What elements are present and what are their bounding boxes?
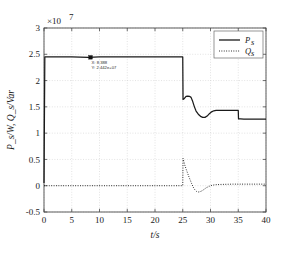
x-axis-title: t/s: [151, 230, 160, 240]
svg-text:5: 5: [70, 215, 75, 225]
svg-text:15: 15: [123, 215, 133, 225]
x-tick-labels: 0510152025303540: [42, 215, 271, 225]
svg-text:0: 0: [42, 215, 47, 225]
svg-text:20: 20: [151, 215, 161, 225]
figure-container: X: 8.388Y: 2.442e+07 0510152025303540 -0…: [0, 0, 291, 266]
svg-text:-0.5: -0.5: [26, 207, 41, 217]
svg-text:30: 30: [206, 215, 216, 225]
chart-legend[interactable]: PsQs: [214, 31, 263, 58]
svg-text:t/s: t/s: [151, 230, 160, 240]
svg-text:P: P: [244, 35, 250, 45]
svg-text:40: 40: [262, 215, 272, 225]
svg-text:0: 0: [36, 181, 41, 191]
chart-plot: X: 8.388Y: 2.442e+07 0510152025303540 -0…: [0, 0, 291, 266]
svg-text:3: 3: [36, 23, 41, 33]
svg-text:10: 10: [95, 215, 105, 225]
svg-text:7: 7: [69, 12, 74, 22]
svg-text:×10: ×10: [47, 16, 62, 26]
svg-text:0.5: 0.5: [29, 155, 41, 165]
y-tick-labels: -0.500.511.522.53: [26, 23, 41, 217]
svg-text:2: 2: [36, 76, 41, 86]
svg-text:Y: 2.442e+07: Y: 2.442e+07: [92, 65, 117, 70]
svg-text:35: 35: [234, 215, 244, 225]
exponent-multiplier-label: ×10 7: [47, 12, 74, 26]
svg-text:2.5: 2.5: [29, 49, 41, 59]
svg-text:25: 25: [178, 215, 188, 225]
svg-text:P_s/W, Q_s/Var: P_s/W, Q_s/Var: [6, 90, 16, 151]
svg-text:1: 1: [36, 128, 41, 138]
svg-text:1.5: 1.5: [29, 102, 41, 112]
y-axis-title: P_s/W, Q_s/Var: [6, 90, 16, 151]
